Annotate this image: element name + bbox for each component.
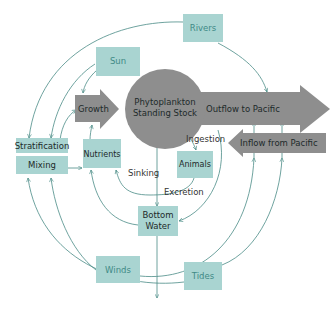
inflow-label: Inflow from Pacific bbox=[240, 138, 318, 148]
mixing-label: Mixing bbox=[28, 160, 56, 170]
sinking-label: Sinking bbox=[128, 168, 159, 178]
ingestion-label: Ingestion bbox=[186, 134, 225, 144]
winds-to-mixing-arrow bbox=[51, 178, 96, 270]
bottom-water-to-nutrients-arrow bbox=[91, 170, 138, 225]
outflow-label: Outflow to Pacific bbox=[206, 104, 280, 114]
tides-label: Tides bbox=[191, 271, 215, 281]
phytoplankton-label-line2: Standing Stock bbox=[133, 108, 197, 118]
bottom-water-label-line1: Bottom bbox=[142, 210, 173, 220]
sun-to-growth-arrow bbox=[83, 70, 97, 93]
stratification-to-growth-arrow bbox=[60, 110, 76, 140]
animals-label: Animals bbox=[179, 160, 211, 169]
stratification-label: Stratification bbox=[15, 141, 70, 151]
phytoplankton-diagram: Growth Phytoplankton Standing Stock Outf… bbox=[0, 0, 332, 309]
excretion-label: Excretion bbox=[164, 187, 204, 197]
sun-label: Sun bbox=[110, 56, 126, 66]
growth-label: Growth bbox=[78, 104, 109, 114]
nutrients-to-growth-arrow bbox=[90, 125, 92, 140]
rivers-to-outflow-arrow bbox=[218, 43, 267, 92]
rivers-label: Rivers bbox=[190, 23, 217, 33]
nutrients-label: Nutrients bbox=[84, 150, 121, 159]
tides-to-inflow-arrow bbox=[222, 158, 282, 265]
phytoplankton-label-line1: Phytoplankton bbox=[134, 97, 195, 107]
winds-label: Winds bbox=[105, 265, 131, 275]
bottom-water-label-line2: Water bbox=[145, 221, 171, 231]
